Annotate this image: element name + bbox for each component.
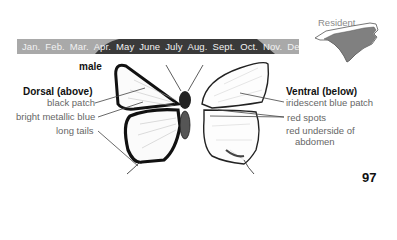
annotation-bright-metallic-blue: bright metallic blue [16, 111, 95, 122]
annotation-red-underside: red underside of [286, 125, 355, 136]
ventral-heading: Ventral (below) [286, 86, 357, 97]
dorsal-heading: Dorsal (above) [23, 86, 92, 97]
annotation-red-spots: red spots [287, 112, 326, 123]
annotation-black-patch: black patch [47, 97, 95, 108]
annotation-long-tails: long tails [56, 125, 94, 136]
page-number: 97 [362, 170, 376, 185]
annotation-abdomen: abdomen [295, 136, 335, 147]
sex-label: male [79, 61, 102, 72]
annotation-iridescent-blue-patch: iridescent blue patch [286, 97, 373, 108]
